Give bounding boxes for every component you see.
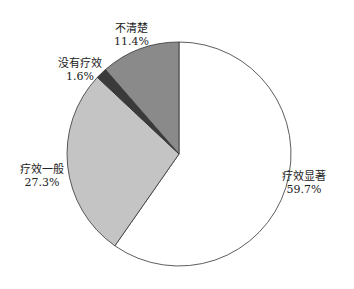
slice-label-unclear: 不清楚 11.4% <box>114 22 149 48</box>
slice-percent: 11.4% <box>114 35 149 48</box>
slice-label-moderate: 疗效一般 27.3% <box>20 163 64 189</box>
slice-label-significant: 疗效显著 59.7% <box>282 170 326 196</box>
slice-percent: 1.6% <box>58 70 102 83</box>
slice-name: 没有疗效 <box>58 57 102 70</box>
slice-name: 疗效一般 <box>20 163 64 176</box>
slice-name: 疗效显著 <box>282 170 326 183</box>
pie-chart <box>0 0 354 289</box>
slice-name: 不清楚 <box>114 22 149 35</box>
slice-label-none: 没有疗效 1.6% <box>58 57 102 83</box>
slice-percent: 59.7% <box>282 183 326 196</box>
slice-percent: 27.3% <box>20 176 64 189</box>
